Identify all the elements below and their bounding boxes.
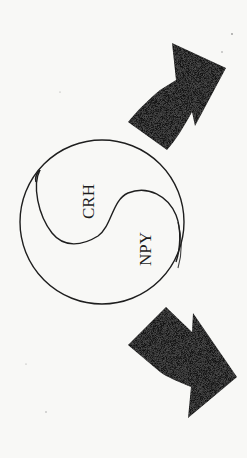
diagram-canvas: CRH NPY xyxy=(0,0,247,458)
arrow-top-icon xyxy=(128,43,226,150)
region-label-npy: NPY xyxy=(136,232,155,266)
yin-yang-diagram: CRH NPY xyxy=(0,0,247,458)
yin-yang-circle xyxy=(20,140,184,304)
region-label-crh: CRH xyxy=(79,184,98,219)
arrow-bottom-icon xyxy=(128,307,237,418)
s-curve-divider xyxy=(36,170,179,262)
